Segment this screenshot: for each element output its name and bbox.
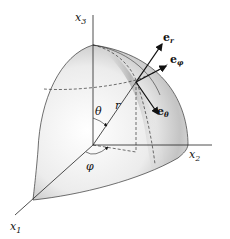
sphere-octant-surface [33, 45, 188, 200]
x1-label: x1 [10, 220, 21, 235]
e-r-label: er [163, 31, 175, 45]
spherical-coordinates-diagram: x3 x2 x1 θ φ r er eφ eθ [0, 0, 230, 239]
x2-label: x2 [189, 148, 200, 163]
radius-label: r [115, 99, 121, 112]
phi-label: φ [86, 160, 94, 173]
theta-label: θ [95, 105, 102, 118]
e-phi-label: eφ [170, 53, 184, 67]
x3-label: x3 [75, 11, 86, 26]
